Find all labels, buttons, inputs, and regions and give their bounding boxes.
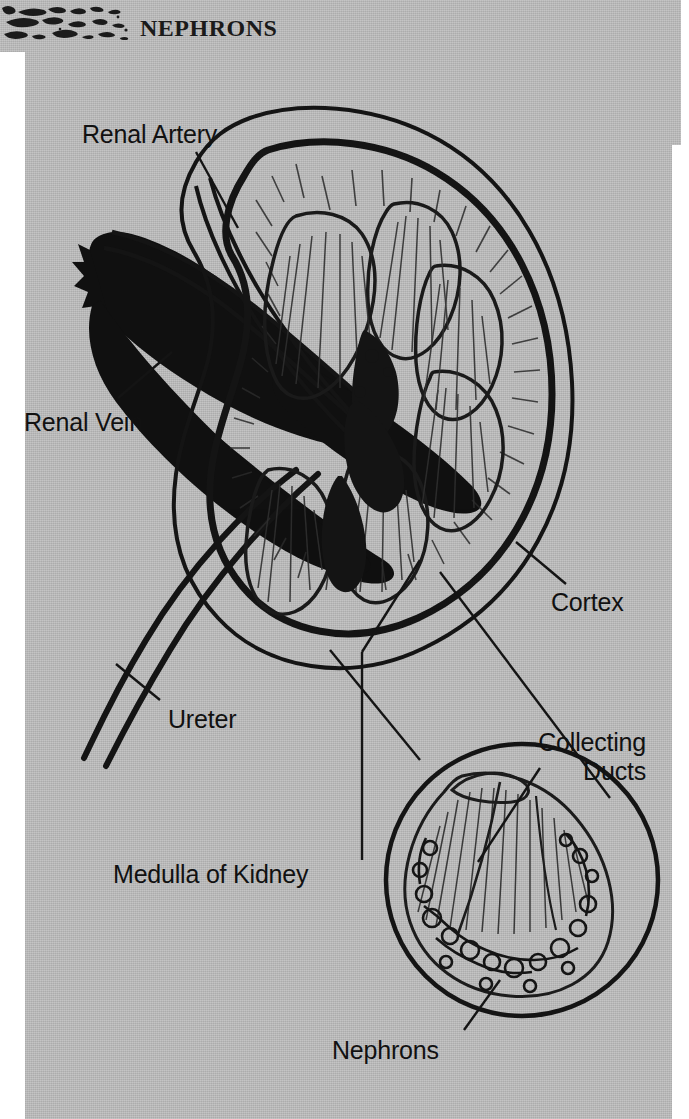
- page-margin-left: [0, 52, 25, 1119]
- page-title: Nephrons: [140, 6, 277, 44]
- page-margin-right: [672, 145, 689, 1119]
- page-background: [0, 0, 689, 1119]
- brush-texture-ornament-icon: [0, 2, 132, 46]
- label-collecting-ducts: Collecting Ducts: [466, 728, 646, 786]
- label-renal-vein: Renal Vein: [24, 408, 143, 437]
- label-nephrons: Nephrons: [332, 1036, 439, 1065]
- figure-header: Nephrons: [0, 0, 689, 52]
- label-medulla-of-kidney: Medulla of Kidney: [113, 860, 308, 889]
- label-renal-artery: Renal Artery: [82, 120, 217, 149]
- figure-page: Nephrons: [0, 0, 689, 1119]
- label-cortex: Cortex: [551, 588, 623, 617]
- label-ureter: Ureter: [168, 705, 236, 734]
